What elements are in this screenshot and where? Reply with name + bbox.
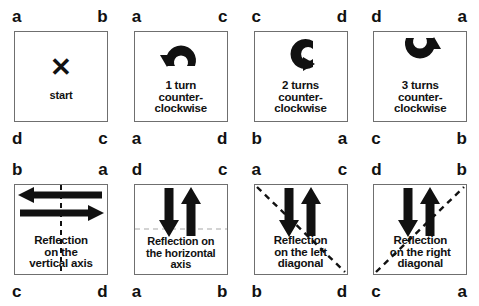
- corner-label-bottom-left: a: [132, 130, 141, 147]
- corner-label-bottom-right: b: [217, 283, 227, 300]
- cell-reflection-horizontal: d c a b Reflection on the horizontal axi…: [120, 153, 240, 306]
- corner-label-top-right: d: [337, 8, 347, 25]
- corner-label-top-left: c: [252, 8, 261, 25]
- caption-reflection-right-diagonal: Reflection on the right diagonal: [374, 235, 466, 270]
- square-rotation-1: 1 turn counter- clockwise: [134, 31, 228, 122]
- cell-rotation-3: d a c b 3 turns counter- clockwise: [359, 0, 479, 153]
- caption-line: 2 turns: [255, 80, 347, 92]
- corner-label-bottom-right: b: [457, 130, 467, 147]
- corner-label-bottom-left: b: [252, 283, 262, 300]
- corner-label-top-left: a: [12, 8, 21, 25]
- corner-label-top-left: a: [252, 161, 261, 178]
- corner-label-bottom-right: d: [217, 130, 227, 147]
- corner-label-top-left: d: [371, 161, 381, 178]
- square-reflection-left-diagonal: Reflection on the left diagonal: [254, 184, 348, 275]
- rotate-counterclockwise-icon: [158, 37, 204, 67]
- figure-row-rotations: a b d c ✕ start a c a d 1 turn count: [0, 0, 479, 153]
- x-mark-icon: ✕: [15, 54, 107, 80]
- square-reflection-right-diagonal: Reflection on the right diagonal: [373, 184, 467, 275]
- corner-label-bottom-right: d: [97, 283, 107, 300]
- corner-label-bottom-left: c: [371, 283, 380, 300]
- vertical-double-arrow-icon: [159, 187, 203, 237]
- square-rotation-2: 2 turns counter- clockwise: [254, 31, 348, 122]
- caption-rotation-3: 3 turns counter- clockwise: [374, 80, 466, 115]
- corner-label-top-right: a: [458, 8, 467, 25]
- square-start: ✕ start: [14, 31, 108, 122]
- cell-reflection-vertical: b a c d Reflection on the vertical axis: [0, 153, 120, 306]
- caption-line: clockwise: [135, 103, 227, 115]
- corner-label-top-left: d: [132, 161, 142, 178]
- horizontal-double-arrow-icon: [18, 187, 104, 221]
- corner-label-top-right: c: [218, 8, 227, 25]
- corner-label-top-left: d: [371, 8, 381, 25]
- cell-reflection-left-diagonal: a c b d Reflection on the left diagonal: [240, 153, 360, 306]
- corner-label-top-left: a: [132, 8, 141, 25]
- corner-label-bottom-left: a: [132, 283, 141, 300]
- caption-line: Reflection: [374, 235, 466, 247]
- caption-line: diagonal: [255, 258, 347, 270]
- corner-label-bottom-left: b: [252, 130, 262, 147]
- corner-label-bottom-left: c: [371, 130, 380, 147]
- cell-start: a b d c ✕ start: [0, 0, 120, 153]
- vertical-double-arrow-icon: [279, 187, 323, 237]
- cell-rotation-2: c d b a 2 turns counter- clockwise: [240, 0, 360, 153]
- corner-label-bottom-right: a: [338, 130, 347, 147]
- symmetry-figure: a b d c ✕ start a c a d 1 turn count: [0, 0, 479, 306]
- caption-reflection-left-diagonal: Reflection on the left diagonal: [255, 235, 347, 270]
- square-reflection-horizontal: Reflection on the horizontal axis: [134, 184, 228, 275]
- corner-label-bottom-right: c: [98, 130, 107, 147]
- caption-rotation-2: 2 turns counter- clockwise: [255, 80, 347, 115]
- caption-line: vertical axis: [15, 258, 107, 270]
- corner-label-top-right: c: [218, 161, 227, 178]
- caption-reflection-vertical: Reflection on the vertical axis: [15, 235, 107, 270]
- figure-row-reflections: b a c d Reflection on the vertical axis: [0, 153, 479, 306]
- corner-label-top-right: a: [98, 161, 107, 178]
- caption-line: 1 turn: [135, 80, 227, 92]
- square-rotation-3: 3 turns counter- clockwise: [373, 31, 467, 122]
- caption-line: Reflection: [255, 235, 347, 247]
- square-reflection-vertical: Reflection on the vertical axis: [14, 184, 108, 275]
- rotate-counterclockwise-icon: [397, 37, 443, 67]
- rotate-counterclockwise-icon: [284, 37, 318, 71]
- caption-line: axis: [135, 259, 227, 270]
- corner-label-bottom-left: c: [12, 283, 21, 300]
- caption-line: 3 turns: [374, 80, 466, 92]
- caption-line: Reflection: [15, 235, 107, 247]
- cell-rotation-1: a c a d 1 turn counter- clockwise: [120, 0, 240, 153]
- corner-label-top-right: c: [338, 161, 347, 178]
- corner-label-bottom-right: d: [337, 283, 347, 300]
- corner-label-top-left: b: [12, 161, 22, 178]
- caption-line: Reflection on: [135, 236, 227, 247]
- caption-line: diagonal: [374, 258, 466, 270]
- cell-reflection-right-diagonal: d b c a Reflection on the right diagonal: [359, 153, 479, 306]
- corner-label-bottom-left: d: [12, 130, 22, 147]
- caption-start: start: [15, 90, 107, 101]
- corner-label-top-right: b: [457, 161, 467, 178]
- caption-line: clockwise: [374, 103, 466, 115]
- vertical-double-arrow-icon: [398, 187, 442, 237]
- caption-reflection-horizontal: Reflection on the horizontal axis: [135, 236, 227, 270]
- caption-line: clockwise: [255, 103, 347, 115]
- corner-label-bottom-right: a: [458, 283, 467, 300]
- corner-label-top-right: b: [97, 8, 107, 25]
- caption-rotation-1: 1 turn counter- clockwise: [135, 80, 227, 115]
